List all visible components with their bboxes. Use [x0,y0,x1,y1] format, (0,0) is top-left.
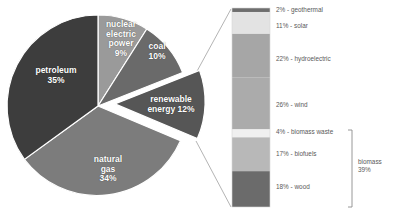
bar-segment-solar[interactable] [232,12,270,34]
pie-chart [7,15,205,195]
bar-segment-hydroelectric[interactable] [232,34,270,78]
bar-segment-wood[interactable] [232,171,270,207]
bar-segment-biomass-waste[interactable] [232,129,270,137]
renewable-stacked-bar [232,8,270,207]
bar-label-wood: 18% - wood [276,183,310,191]
bar-label-biofuels: 17% - biofuels [276,150,317,158]
bar-segment-wind[interactable] [232,78,270,130]
bar-label-wind: 26% - wind [276,101,308,109]
bar-segment-geothermal[interactable] [232,8,270,12]
bar-label-biomass-waste: 4% - biomass waste [276,128,333,136]
bar-label-hydroelectric: 22% - hydroelectric [276,55,331,63]
energy-consumption-figure: petroleum 35% natural gas 34% renewable … [0,0,393,213]
bar-label-solar: 11% - solar [276,22,308,30]
connector-line-bottom [196,141,231,207]
biomass-bracket-label: biomass 39% [358,158,392,174]
connector-line-top [196,9,231,73]
chart-svg [0,0,393,213]
bar-label-geothermal: 2% - geothermal [276,6,323,14]
biomass-bracket [348,130,352,207]
bracket-path [348,130,352,207]
bar-segment-biofuels[interactable] [232,137,270,171]
